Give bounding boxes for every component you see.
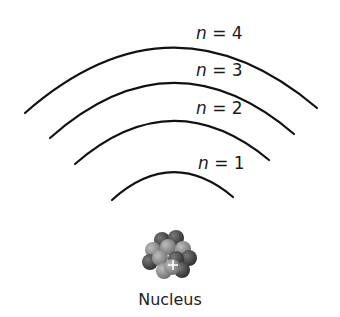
level-label-n1: n = 1 <box>198 155 245 172</box>
energy-level-diagram <box>0 0 340 317</box>
level-label-n3: n = 3 <box>196 62 243 79</box>
shell-arc-n4 <box>25 48 317 113</box>
level-label-n2: n = 2 <box>196 100 243 117</box>
shell-arc-n3 <box>50 83 294 138</box>
nucleus-label: Nucleus <box>0 292 340 308</box>
nucleus-icon <box>142 230 197 279</box>
level-label-n4: n = 4 <box>196 25 243 42</box>
shell-arc-n1 <box>112 172 233 200</box>
